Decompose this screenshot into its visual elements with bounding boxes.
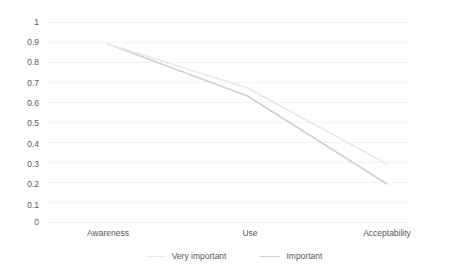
line-chart: 1 0.9 0.8 0.7 0.6 0.5 0.4 0.3 0.2 0.1 0 … (0, 0, 468, 271)
y-tick-label: 0.6 (27, 99, 39, 108)
x-tick-label-use: Use (242, 228, 257, 238)
y-tick-label: 0.4 (27, 140, 39, 149)
series-container (46, 22, 408, 222)
legend-label: Very important (172, 251, 227, 261)
y-tick-label: 0 (34, 218, 39, 227)
legend-label: Important (286, 251, 322, 261)
y-tick-label: 1 (34, 18, 39, 27)
x-axis: Awareness Use Acceptability (46, 228, 408, 242)
y-tick-label: 0.3 (27, 160, 39, 169)
series-line-important (108, 44, 387, 184)
plot-area (46, 22, 408, 222)
y-tick-label: 0.1 (27, 201, 39, 210)
y-tick-label: 0.5 (27, 119, 39, 128)
x-tick-label-acceptability: Acceptability (363, 228, 411, 238)
y-tick-label: 0.7 (27, 79, 39, 88)
legend-line-icon (260, 256, 280, 257)
series-line-very-important (108, 44, 387, 164)
legend-entry-very-important[interactable]: Very important (146, 251, 227, 261)
y-tick-label: 0.8 (27, 58, 39, 67)
y-tick-label: 0.2 (27, 180, 39, 189)
y-tick-label: 0.9 (27, 38, 39, 47)
x-tick-label-awareness: Awareness (87, 228, 129, 238)
chart-legend: Very important Important (0, 248, 468, 264)
gridline (46, 222, 408, 223)
legend-line-icon (146, 256, 166, 257)
y-axis: 1 0.9 0.8 0.7 0.6 0.5 0.4 0.3 0.2 0.1 0 (0, 0, 46, 271)
legend-entry-important[interactable]: Important (260, 251, 322, 261)
